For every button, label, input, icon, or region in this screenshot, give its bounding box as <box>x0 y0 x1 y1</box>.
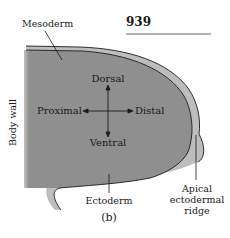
label-aer-line2: ectodermal <box>170 194 224 205</box>
limb-bud-diagram: 939 Dorsal Ventral Proximal Distal Mesod… <box>0 0 230 238</box>
body-wall-fade <box>18 44 38 194</box>
label-aer-line1: Apical <box>181 183 212 194</box>
page-number: 939 <box>126 15 151 29</box>
axis-label-dorsal: Dorsal <box>91 73 124 84</box>
label-body-wall: Body wall <box>7 99 18 146</box>
label-ectoderm: Ectoderm <box>85 195 132 206</box>
axis-label-proximal: Proximal <box>37 105 82 116</box>
label-mesoderm: Mesoderm <box>22 18 73 29</box>
axis-label-distal: Distal <box>135 105 165 116</box>
panel-label: (b) <box>101 211 117 224</box>
axis-label-ventral: Ventral <box>89 137 127 148</box>
label-aer-line3: ridge <box>184 205 210 216</box>
